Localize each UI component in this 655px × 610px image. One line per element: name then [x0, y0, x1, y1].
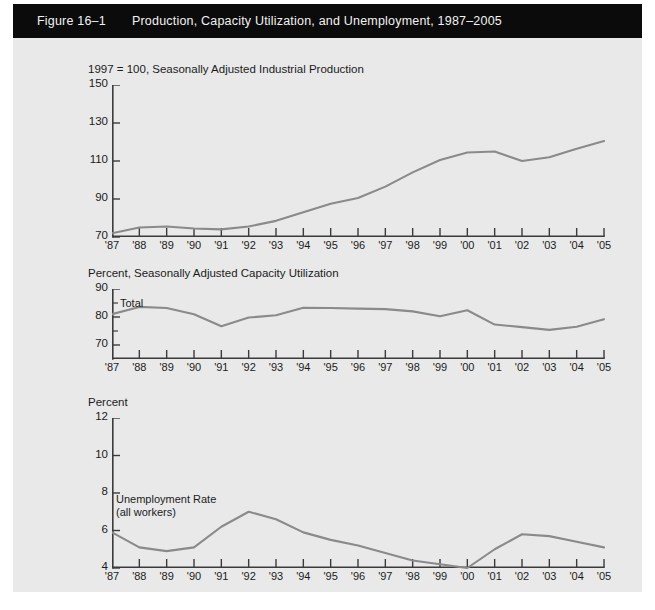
x-axis-tick-label: '96 — [344, 361, 372, 373]
x-axis-tick-label: '90 — [180, 570, 208, 582]
x-axis-tick-label: '95 — [317, 239, 345, 251]
panel-unemployment: Percent 1210864'87'88'89'90'91'92'93'94'… — [88, 396, 618, 581]
x-axis-tick-label: '04 — [563, 570, 591, 582]
plot-capacity-utilization: 908070'87'88'89'90'91'92'93'94'95'96'97'… — [112, 289, 616, 381]
figure-page: Figure 16–1 Production, Capacity Utiliza… — [0, 0, 655, 610]
x-axis-tick-label: '90 — [180, 361, 208, 373]
x-axis-tick-label: '96 — [344, 239, 372, 251]
x-axis-tick-label: '94 — [289, 361, 317, 373]
figure-title: Production, Capacity Utilization, and Un… — [132, 14, 502, 28]
panel-capacity-utilization: Percent, Seasonally Adjusted Capacity Ut… — [88, 267, 618, 377]
series-line — [112, 307, 604, 330]
x-axis-tick-label: '88 — [125, 361, 153, 373]
x-axis-tick-label: '01 — [481, 361, 509, 373]
x-axis-tick-label: '90 — [180, 239, 208, 251]
x-axis-tick-label: '02 — [508, 570, 536, 582]
x-axis-tick-label: '05 — [590, 570, 618, 582]
panel-title-capacity-utilization: Percent, Seasonally Adjusted Capacity Ut… — [88, 267, 339, 279]
x-axis-tick-label: '89 — [153, 570, 181, 582]
x-axis-tick-label: '88 — [125, 570, 153, 582]
x-axis-tick-label: '05 — [590, 239, 618, 251]
annotation-total: Total — [120, 297, 143, 310]
panel-title-unemployment: Percent — [88, 396, 128, 408]
annotation-all-workers: (all workers) — [116, 506, 176, 519]
figure-header-bar: Figure 16–1 Production, Capacity Utiliza… — [13, 4, 642, 38]
x-axis-tick-label: '92 — [235, 570, 263, 582]
chart-svg — [112, 85, 616, 259]
x-axis-tick-label: '00 — [453, 361, 481, 373]
y-axis-tick-label: 12 — [78, 410, 108, 422]
x-axis-tick-label: '02 — [508, 239, 536, 251]
x-axis-tick-label: '04 — [563, 239, 591, 251]
x-axis-tick-label: '95 — [317, 361, 345, 373]
x-axis-tick-label: '97 — [371, 570, 399, 582]
x-axis-tick-label: '99 — [426, 361, 454, 373]
y-axis-tick-label: 150 — [78, 77, 108, 89]
panel-industrial-production: 1997 = 100, Seasonally Adjusted Industri… — [88, 63, 618, 253]
x-axis-tick-label: '91 — [207, 570, 235, 582]
y-axis-tick-label: 90 — [78, 191, 108, 203]
x-axis-tick-label: '95 — [317, 570, 345, 582]
x-axis-tick-label: '87 — [98, 570, 126, 582]
x-axis-tick-label: '94 — [289, 239, 317, 251]
y-axis-tick-label: 6 — [78, 523, 108, 535]
x-axis-tick-label: '97 — [371, 361, 399, 373]
x-axis-tick-label: '01 — [481, 570, 509, 582]
x-axis-tick-label: '87 — [98, 361, 126, 373]
x-axis-tick-label: '02 — [508, 361, 536, 373]
x-axis-tick-label: '93 — [262, 361, 290, 373]
x-axis-tick-label: '91 — [207, 239, 235, 251]
y-axis-tick-label: 8 — [78, 485, 108, 497]
x-axis-tick-label: '89 — [153, 239, 181, 251]
x-axis-tick-label: '93 — [262, 570, 290, 582]
x-axis-tick-label: '94 — [289, 570, 317, 582]
x-axis-tick-label: '91 — [207, 361, 235, 373]
x-axis-tick-label: '98 — [399, 570, 427, 582]
y-axis-tick-label: 10 — [78, 448, 108, 460]
x-axis-tick-label: '04 — [563, 361, 591, 373]
x-axis-tick-label: '98 — [399, 239, 427, 251]
series-line — [112, 141, 604, 233]
plot-industrial-production: 1501301109070'87'88'89'90'91'92'93'94'95… — [112, 85, 616, 259]
x-axis-tick-label: '93 — [262, 239, 290, 251]
panel-title-industrial-production: 1997 = 100, Seasonally Adjusted Industri… — [88, 63, 364, 75]
figure-number: Figure 16–1 — [37, 14, 106, 28]
y-axis-tick-label: 110 — [78, 153, 108, 165]
x-axis-tick-label: '05 — [590, 361, 618, 373]
x-axis-tick-label: '92 — [235, 239, 263, 251]
x-axis-tick-label: '03 — [535, 570, 563, 582]
x-axis-tick-label: '99 — [426, 239, 454, 251]
y-axis-tick-label: 90 — [78, 281, 108, 293]
x-axis-tick-label: '00 — [453, 239, 481, 251]
x-axis-tick-label: '89 — [153, 361, 181, 373]
x-axis-tick-label: '87 — [98, 239, 126, 251]
x-axis-tick-label: '03 — [535, 361, 563, 373]
x-axis-tick-label: '88 — [125, 239, 153, 251]
x-axis-tick-label: '03 — [535, 239, 563, 251]
y-axis-tick-label: 80 — [78, 309, 108, 321]
y-axis-tick-label: 70 — [78, 337, 108, 349]
x-axis-tick-label: '99 — [426, 570, 454, 582]
x-axis-tick-label: '97 — [371, 239, 399, 251]
x-axis-tick-label: '98 — [399, 361, 427, 373]
y-axis-tick-label: 130 — [78, 115, 108, 127]
x-axis-tick-label: '00 — [453, 570, 481, 582]
x-axis-tick-label: '01 — [481, 239, 509, 251]
annotation-unemployment-rate: Unemployment Rate — [116, 493, 216, 506]
x-axis-tick-label: '96 — [344, 570, 372, 582]
x-axis-tick-label: '92 — [235, 361, 263, 373]
